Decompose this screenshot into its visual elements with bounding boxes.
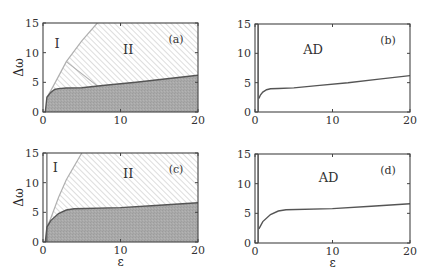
- ad-boundary-curve: [259, 76, 410, 99]
- panel-b: AD01020051015(b): [237, 18, 417, 127]
- region-label-i: I: [53, 160, 58, 175]
- region-label-ad: AD: [302, 42, 323, 57]
- x-tick-label: 20: [403, 245, 417, 258]
- x-tick-label: 0: [252, 245, 259, 258]
- panel-label: (b): [380, 34, 396, 47]
- x-tick-label: 0: [40, 114, 47, 127]
- x-tick-label: 20: [191, 114, 205, 127]
- x-tick-label: 0: [252, 114, 259, 127]
- y-tick-label: 15: [237, 18, 251, 31]
- y-axis-label: Δω: [12, 188, 26, 207]
- y-tick-label: 15: [25, 17, 39, 30]
- region-label-ii: II: [123, 42, 133, 57]
- y-tick-label: 15: [25, 147, 39, 160]
- y-tick-label: 0: [244, 237, 251, 250]
- y-tick-label: 5: [244, 207, 251, 220]
- region-label-ad: AD: [318, 170, 339, 185]
- panel-label: (a): [168, 33, 183, 46]
- y-tick-label: 10: [237, 47, 251, 60]
- panel-label: (d): [380, 164, 396, 177]
- panel-c: III01020051015(c)Δωε: [12, 147, 205, 269]
- y-tick-label: 10: [237, 178, 251, 191]
- y-tick-label: 0: [32, 106, 39, 119]
- x-tick-label: 10: [326, 114, 340, 127]
- y-axis-label: Δω: [12, 58, 26, 77]
- y-tick-label: 5: [32, 76, 39, 89]
- panel-d: AD01020051015(d)ε: [237, 148, 417, 270]
- panel-a: III01020051015(a)Δω: [12, 17, 205, 127]
- region-label-ii: II: [123, 166, 133, 181]
- y-tick-label: 10: [25, 47, 39, 60]
- panel-label: (c): [169, 163, 184, 176]
- region-label-i: I: [54, 36, 59, 51]
- x-tick-label: 20: [403, 114, 417, 127]
- y-tick-label: 0: [244, 106, 251, 119]
- figure: III01020051015(a)ΔωAD01020051015(b)III01…: [0, 0, 430, 280]
- x-axis-label: ε: [329, 256, 335, 270]
- y-tick-label: 0: [32, 236, 39, 249]
- ad-boundary-curve: [259, 204, 410, 229]
- y-tick-label: 15: [237, 148, 251, 161]
- x-tick-label: 0: [40, 244, 47, 257]
- x-axis-label: ε: [117, 255, 123, 269]
- y-tick-label: 5: [244, 77, 251, 90]
- x-tick-label: 10: [114, 114, 128, 127]
- y-tick-label: 10: [25, 177, 39, 190]
- y-tick-label: 5: [32, 206, 39, 219]
- x-tick-label: 20: [191, 244, 205, 257]
